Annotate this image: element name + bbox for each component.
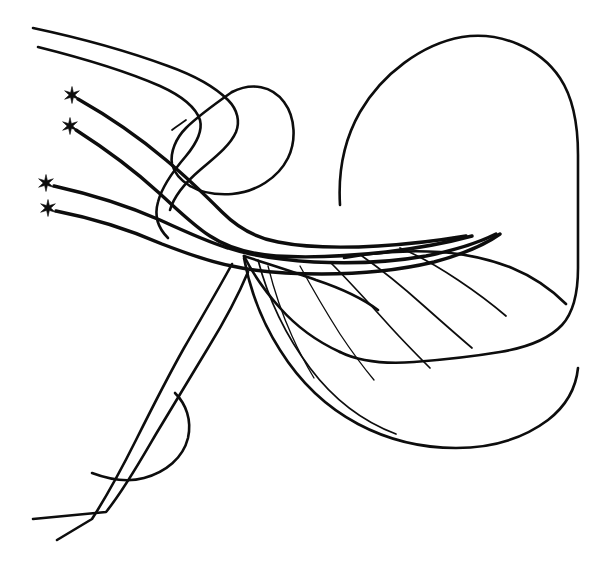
figure-canvas [0,0,610,571]
line-drawing-svg [0,0,610,571]
background-plate [0,0,610,571]
